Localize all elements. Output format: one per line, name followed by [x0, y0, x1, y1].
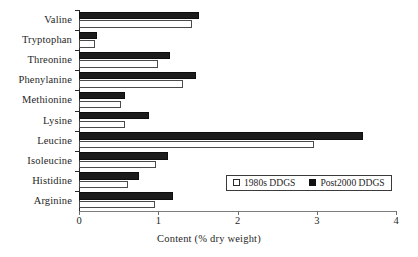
x-axis-tick-label: 2: [223, 216, 253, 227]
bar-post2000-ddgs: [79, 192, 173, 199]
legend-swatch-open-icon: [233, 179, 240, 186]
legend-label-1980s-ddgs: 1980s DDGS: [244, 178, 295, 188]
bar-1980s-ddgs: [79, 80, 183, 87]
category-row: Arginine: [79, 191, 396, 211]
legend-entry-post2000-ddgs: Post2000 DDGS: [309, 178, 384, 188]
legend-label-post2000-ddgs: Post2000 DDGS: [320, 178, 384, 188]
x-axis-title: Content (% dry weight): [0, 233, 418, 244]
x-axis-tick-label: 0: [64, 216, 94, 227]
category-label: Methionine: [22, 95, 72, 106]
category-label: Lysine: [43, 115, 72, 126]
category-label: Arginine: [34, 196, 72, 207]
bar-post2000-ddgs: [79, 152, 168, 159]
category-label: Phenylanine: [18, 75, 72, 86]
category-label: Leucine: [37, 135, 72, 146]
bar-1980s-ddgs: [79, 101, 121, 108]
bar-post2000-ddgs: [79, 72, 196, 79]
category-row: Isoleucine: [79, 151, 396, 171]
amino-acid-content-bar-chart: ValineTryptophanThreoninePhenylanineMeth…: [0, 0, 418, 257]
category-label: Histidine: [32, 176, 72, 187]
bar-post2000-ddgs: [79, 12, 199, 19]
category-row: Leucine: [79, 131, 396, 151]
category-label: Tryptophan: [22, 35, 72, 46]
category-label: Isoleucine: [27, 155, 72, 166]
bar-post2000-ddgs: [79, 32, 97, 39]
bar-1980s-ddgs: [79, 141, 314, 148]
x-axis-tick-label: 4: [381, 216, 411, 227]
bar-1980s-ddgs: [79, 40, 95, 47]
legend-swatch-filled-icon: [309, 179, 316, 186]
category-label: Valine: [44, 15, 72, 26]
chart-legend: 1980s DDGS Post2000 DDGS: [226, 175, 392, 191]
bar-post2000-ddgs: [79, 112, 149, 119]
category-row: Methionine: [79, 90, 396, 110]
category-label: Threonine: [28, 55, 73, 66]
bar-1980s-ddgs: [79, 161, 156, 168]
bar-1980s-ddgs: [79, 181, 128, 188]
category-row: Tryptophan: [79, 30, 396, 50]
category-row: Threonine: [79, 50, 396, 70]
category-row: Lysine: [79, 111, 396, 131]
bar-post2000-ddgs: [79, 132, 363, 139]
bar-1980s-ddgs: [79, 121, 125, 128]
legend-entry-1980s-ddgs: 1980s DDGS: [233, 178, 295, 188]
bar-1980s-ddgs: [79, 201, 155, 208]
x-axis-tick-label: 1: [143, 216, 173, 227]
bar-1980s-ddgs: [79, 20, 192, 27]
category-row: Valine: [79, 10, 396, 30]
bar-post2000-ddgs: [79, 92, 125, 99]
bar-post2000-ddgs: [79, 172, 139, 179]
category-row: Phenylanine: [79, 70, 396, 90]
x-axis-tick-label: 3: [302, 216, 332, 227]
bar-post2000-ddgs: [79, 52, 170, 59]
bar-1980s-ddgs: [79, 60, 158, 67]
